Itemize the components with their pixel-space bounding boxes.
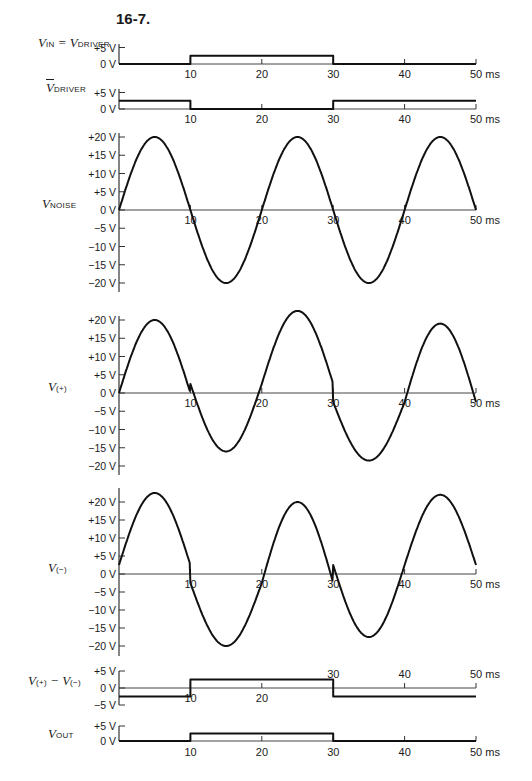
x-tick-label: 10 — [184, 68, 196, 80]
x-tick-label: 10 — [184, 113, 196, 125]
panel-label-vplus: V(+) — [48, 379, 67, 395]
x-tick-label: 20 — [256, 692, 268, 704]
y-tick-label: +5 V — [94, 720, 116, 732]
y-tick-label: 0 V — [100, 58, 116, 70]
y-tick-label: −20 V — [88, 640, 116, 652]
waveform-trace — [119, 311, 476, 461]
y-tick-label: +5 V — [94, 665, 116, 677]
y-tick-label: +20 V — [88, 314, 116, 326]
y-tick-label: −5 V — [94, 405, 116, 417]
y-tick-label: −15 V — [88, 442, 116, 454]
x-tick-label: 20 — [256, 113, 268, 125]
y-tick-label: 0 V — [100, 204, 116, 216]
x-tick-label: 50 ms — [470, 746, 500, 758]
y-tick-label: −15 V — [88, 622, 116, 634]
panel-label-vnoise: VNOISE — [42, 196, 76, 212]
y-tick-label: +20 V — [88, 131, 116, 143]
waveform-trace — [119, 56, 476, 64]
panel-vdriver_bar: +5 V0 V1020304050 ms — [94, 87, 500, 126]
y-tick-label: −5 V — [94, 586, 116, 598]
x-tick-label: 30 — [327, 113, 339, 125]
waveform-trace — [119, 734, 476, 742]
x-tick-label: 20 — [256, 68, 268, 80]
y-tick-label: +15 V — [88, 149, 116, 161]
waveform-trace — [119, 101, 476, 109]
y-tick-label: +5 V — [94, 369, 116, 381]
x-tick-label: 50 ms — [470, 214, 500, 226]
panel-label-vin: VIN = VDRIVER — [38, 35, 110, 51]
x-tick-label: 30 — [327, 746, 339, 758]
y-tick-label: +20 V — [88, 496, 116, 508]
x-tick-label: 10 — [184, 746, 196, 758]
x-tick-label: 30 — [327, 668, 339, 680]
y-tick-label: 0 V — [100, 568, 116, 580]
y-tick-label: 0 V — [100, 103, 116, 115]
y-tick-label: +10 V — [88, 532, 116, 544]
y-tick-label: 0 V — [100, 387, 116, 399]
x-tick-label: 40 — [399, 746, 411, 758]
panel-label-vdriver_bar: VDRIVER — [46, 80, 86, 96]
y-tick-label: 0 V — [100, 682, 116, 694]
x-tick-label: 30 — [327, 68, 339, 80]
x-tick-label: 50 ms — [470, 68, 500, 80]
x-tick-label: 40 — [399, 113, 411, 125]
x-tick-label: 40 — [399, 668, 411, 680]
x-tick-label: 40 — [399, 68, 411, 80]
y-tick-label: +5 V — [94, 87, 116, 99]
y-tick-label: +5 V — [94, 550, 116, 562]
y-tick-label: −10 V — [88, 241, 116, 253]
panel-label-vminus: V(−) — [48, 560, 67, 576]
y-tick-label: −20 V — [88, 460, 116, 472]
y-tick-label: +10 V — [88, 168, 116, 180]
x-tick-label: 50 ms — [470, 578, 500, 590]
y-tick-label: −10 V — [88, 604, 116, 616]
panel-label-vdiff: V(+) − V(−) — [28, 673, 81, 689]
x-tick-label: 50 ms — [470, 668, 500, 680]
panel-vin: +5 V0 V1020304050 ms — [94, 42, 500, 81]
x-tick-label: 20 — [256, 746, 268, 758]
panel-vdiff: +5 V0 V−5 V1020304050 ms — [94, 665, 500, 711]
y-tick-label: −10 V — [88, 424, 116, 436]
x-tick-label: 50 ms — [470, 113, 500, 125]
y-tick-label: 0 V — [100, 735, 116, 747]
y-tick-label: +5 V — [94, 186, 116, 198]
y-tick-label: −5 V — [94, 222, 116, 234]
y-tick-label: +15 V — [88, 332, 116, 344]
panel-label-vout: VOUT — [48, 726, 74, 742]
y-tick-label: −15 V — [88, 259, 116, 271]
panel-vout: +5 V0 V1020304050 ms — [94, 720, 500, 758]
y-tick-label: −20 V — [88, 277, 116, 289]
waveform-trace — [119, 493, 476, 646]
y-tick-label: −5 V — [94, 699, 116, 711]
y-tick-label: +15 V — [88, 514, 116, 526]
panel-vminus: +20 V+15 V+10 V+5 V0 V−5 V−10 V−15 V−20 … — [88, 488, 500, 656]
waveform-figure: +5 V0 V1020304050 ms+5 V0 V1020304050 ms… — [0, 0, 532, 781]
y-tick-label: +10 V — [88, 351, 116, 363]
panel-vplus: +20 V+15 V+10 V+5 V0 V−5 V−10 V−15 V−20 … — [88, 311, 500, 475]
panel-vnoise: +20 V+15 V+10 V+5 V0 V−5 V−10 V−15 V−20 … — [88, 131, 500, 292]
